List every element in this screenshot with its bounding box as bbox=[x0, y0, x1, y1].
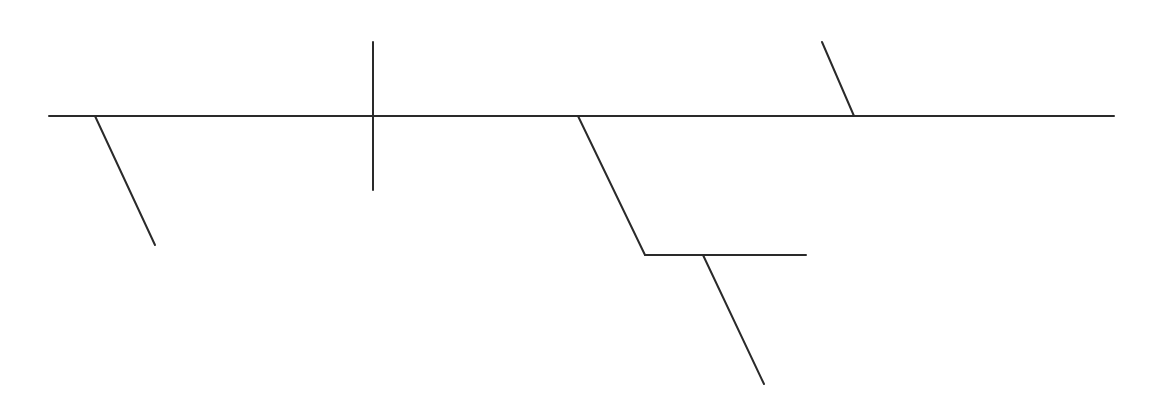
object-modifier-line bbox=[703, 255, 764, 384]
complement-slant bbox=[822, 42, 854, 116]
prepositional-slant bbox=[578, 116, 645, 255]
modifier-line-left bbox=[95, 116, 155, 245]
sentence-diagram bbox=[0, 0, 1152, 401]
